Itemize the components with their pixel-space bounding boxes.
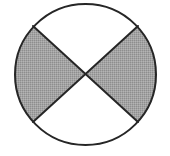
circle-diagram xyxy=(0,0,170,156)
figure-container xyxy=(0,0,170,156)
